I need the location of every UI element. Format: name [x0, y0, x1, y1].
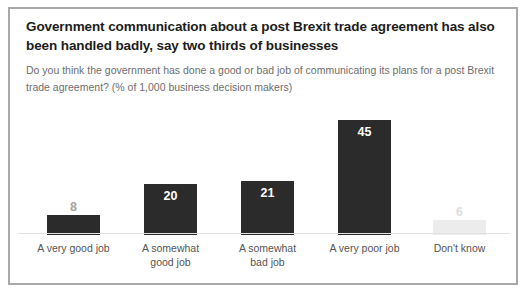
- x-tick-label-line1: A somewhat: [220, 241, 315, 255]
- x-tick-label-4: Don't know: [412, 241, 507, 255]
- bar-column: 20: [123, 107, 218, 235]
- chart-title: Government communication about a post Br…: [26, 17, 504, 55]
- x-tick-label-line2: bad job: [220, 255, 315, 269]
- bar-column: 45: [317, 107, 412, 235]
- x-tick-label-2: A somewhat bad job: [220, 241, 315, 269]
- x-tick-label-3: A very poor job: [317, 241, 412, 255]
- bar-value-label-4: 6: [433, 205, 486, 219]
- bar-plot-area: 8 20 21 45 6: [26, 107, 504, 235]
- bar-value-label-0: 8: [47, 200, 100, 214]
- x-axis-tick-labels: A very good job A somewhat good job A so…: [26, 241, 504, 283]
- bar-rect-3[interactable]: 45: [338, 120, 391, 235]
- x-tick-label-line1: A somewhat: [123, 241, 218, 255]
- bar-column: 6: [412, 107, 507, 235]
- bar-value-label-1: 20: [144, 189, 197, 203]
- chart-card: Government communication about a post Br…: [8, 7, 518, 285]
- bar-column: 21: [220, 107, 315, 235]
- bar-rect-0[interactable]: 8: [47, 215, 100, 235]
- x-tick-label-line1: A very good job: [26, 241, 121, 255]
- x-tick-label-line1: A very poor job: [317, 241, 412, 255]
- bar-value-label-3: 45: [338, 125, 391, 139]
- x-tick-label-1: A somewhat good job: [123, 241, 218, 269]
- x-axis-line: [18, 233, 510, 234]
- bar-column: 8: [26, 107, 121, 235]
- chart-card-inner: Government communication about a post Br…: [10, 9, 516, 283]
- chart-subtitle: Do you think the government has done a g…: [26, 62, 496, 96]
- bar-rect-1[interactable]: 20: [144, 184, 197, 235]
- bar-value-label-2: 21: [241, 186, 294, 200]
- x-tick-label-line1: Don't know: [412, 241, 507, 255]
- x-tick-label-line2: good job: [123, 255, 218, 269]
- x-tick-label-0: A very good job: [26, 241, 121, 255]
- bar-rect-2[interactable]: 21: [241, 181, 294, 235]
